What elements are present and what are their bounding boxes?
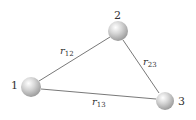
edge-label-r23: r23 xyxy=(143,57,157,69)
node-label-2: 2 xyxy=(114,10,121,21)
node-label-1: 1 xyxy=(11,80,18,91)
three-body-diagram: 1 2 3 r12 r23 r13 xyxy=(0,0,196,120)
node-label-3: 3 xyxy=(178,96,185,107)
sphere-3 xyxy=(156,92,174,110)
edge-label-r13: r13 xyxy=(92,97,106,109)
sphere-1 xyxy=(21,77,41,97)
sphere-2 xyxy=(108,21,128,41)
edge-label-r12: r12 xyxy=(60,46,74,58)
edge-r12 xyxy=(39,37,110,81)
